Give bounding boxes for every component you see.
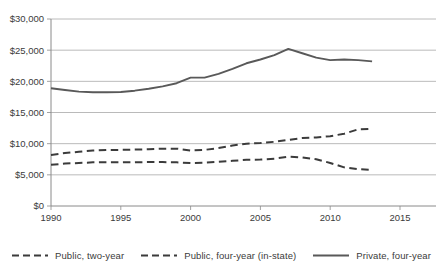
x-axis-tick-label: 2015 xyxy=(389,212,410,223)
y-axis-tick-label: $25,000 xyxy=(10,45,44,56)
legend-item-public-four-year: Public, four-year (in-state) xyxy=(141,250,296,261)
y-axis-tick-label: $20,000 xyxy=(10,76,44,87)
y-axis-tick-label: $5,000 xyxy=(15,169,44,180)
x-axis-tick-label: 2005 xyxy=(250,212,271,223)
x-axis-tick-label: 1990 xyxy=(40,212,61,223)
legend-item-public-two-year: Public, two-year xyxy=(12,250,124,261)
x-axis-tick-label: 1995 xyxy=(110,212,131,223)
y-axis-tick-label: $15,000 xyxy=(10,107,44,118)
y-axis-tick-label: $30,000 xyxy=(10,13,44,24)
series-line-public-four-year-in-state xyxy=(51,129,372,155)
y-axis-tick-label: $0 xyxy=(33,200,44,211)
y-axis-tick-label: $10,000 xyxy=(10,138,44,149)
chart-legend: Public, two-year Public, four-year (in-s… xyxy=(0,244,443,266)
x-axis-tick-label: 2010 xyxy=(320,212,341,223)
line-chart-plot: $0$5,000$10,000$15,000$20,000$25,000$30,… xyxy=(0,0,443,271)
legend-item-private-four-year: Private, four-year xyxy=(313,250,431,261)
series-line-public-two-year xyxy=(51,157,372,170)
x-axis-tick-label: 2000 xyxy=(180,212,201,223)
legend-label-private-four-year: Private, four-year xyxy=(356,250,431,261)
series-line-private-four-year xyxy=(51,49,372,92)
legend-swatch-dashed-icon xyxy=(12,252,48,259)
chart-container: $0$5,000$10,000$15,000$20,000$25,000$30,… xyxy=(0,0,443,271)
legend-label-public-two-year: Public, two-year xyxy=(55,250,124,261)
legend-swatch-dashed-icon xyxy=(141,252,177,259)
legend-swatch-solid-icon xyxy=(313,252,349,259)
legend-label-public-four-year: Public, four-year (in-state) xyxy=(184,250,296,261)
